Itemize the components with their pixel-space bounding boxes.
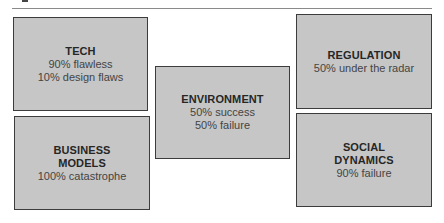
- box-environment: ENVIRONMENT 50% success 50% failure: [155, 66, 290, 159]
- box-title: ENVIRONMENT: [181, 93, 263, 106]
- top-divider-rule: [12, 8, 432, 9]
- box-business-models: BUSINESS MODELS 100% catastrophe: [14, 116, 150, 210]
- box-title: DYNAMICS: [334, 154, 393, 167]
- box-social-dynamics: SOCIAL DYNAMICS 90% failure: [296, 113, 432, 207]
- box-line: 50% success: [190, 106, 255, 119]
- box-line: 90% flawless: [48, 58, 112, 71]
- box-tech: TECH 90% flawless 10% design flaws: [13, 17, 148, 111]
- box-line: 10% design flaws: [38, 71, 124, 84]
- box-title: TECH: [65, 45, 95, 58]
- box-title: REGULATION: [328, 49, 401, 62]
- box-regulation: REGULATION 50% under the radar: [296, 14, 432, 109]
- box-line: 50% under the radar: [314, 62, 414, 75]
- box-title: BUSINESS: [53, 144, 110, 157]
- box-title: SOCIAL: [343, 141, 385, 154]
- box-line: 50% failure: [195, 119, 250, 132]
- box-title: MODELS: [58, 157, 106, 170]
- box-line: 100% catastrophe: [38, 170, 127, 183]
- truncated-caption-fragment: [22, 0, 28, 2]
- box-line: 90% failure: [336, 167, 391, 180]
